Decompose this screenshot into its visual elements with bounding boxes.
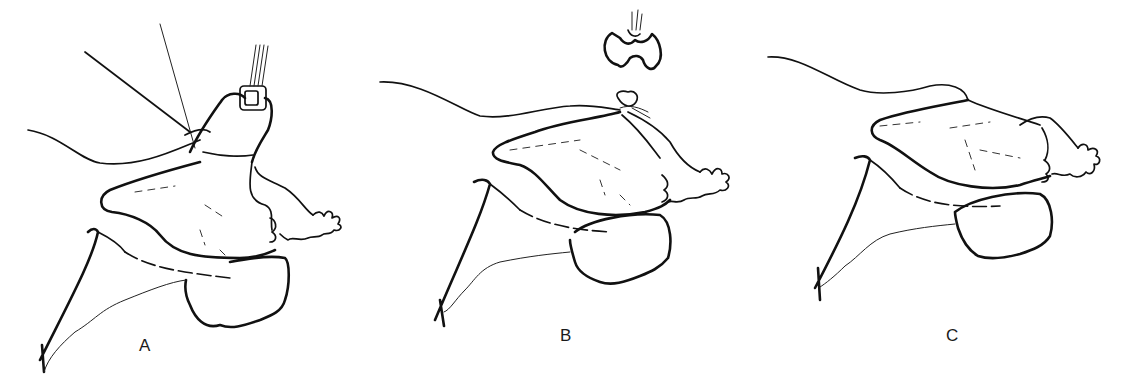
- panel-label-b: B: [560, 326, 571, 346]
- panel-c-drawing: [768, 57, 1100, 300]
- panel-a-drawing: [28, 24, 341, 372]
- panel-b-drawing: [380, 10, 729, 326]
- diagram-figure: A B C: [0, 0, 1148, 392]
- panel-label-c: C: [946, 326, 958, 346]
- diagram-drawing: [0, 0, 1148, 392]
- panel-label-a: A: [139, 336, 150, 356]
